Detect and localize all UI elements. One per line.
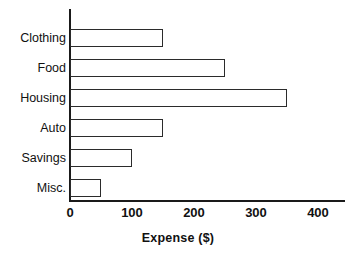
bar-clothing[interactable] xyxy=(70,29,163,47)
x-tick-label-100: 100 xyxy=(102,205,162,220)
bar-auto[interactable] xyxy=(70,119,163,137)
category-label-food: Food xyxy=(0,59,66,77)
category-label-savings: Savings xyxy=(0,149,66,167)
x-tick-label-200: 200 xyxy=(164,205,224,220)
category-label-housing: Housing xyxy=(0,89,66,107)
category-label-misc: Misc. xyxy=(0,179,66,197)
x-tick-label-400: 400 xyxy=(288,205,348,220)
bar-savings[interactable] xyxy=(70,149,132,167)
plot-area: Clothing Food Housing Auto Savings Misc.… xyxy=(0,0,356,259)
x-axis-title: Expense ($) xyxy=(0,231,356,245)
bar-housing[interactable] xyxy=(70,89,287,107)
bar-chart: Clothing Food Housing Auto Savings Misc.… xyxy=(0,0,356,259)
bar-misc[interactable] xyxy=(70,179,101,197)
x-tick-label-300: 300 xyxy=(226,205,286,220)
bar-food[interactable] xyxy=(70,59,225,77)
x-tick-label-0: 0 xyxy=(40,205,100,220)
category-label-auto: Auto xyxy=(0,119,66,137)
category-label-clothing: Clothing xyxy=(0,29,66,47)
x-axis-line xyxy=(69,200,345,202)
